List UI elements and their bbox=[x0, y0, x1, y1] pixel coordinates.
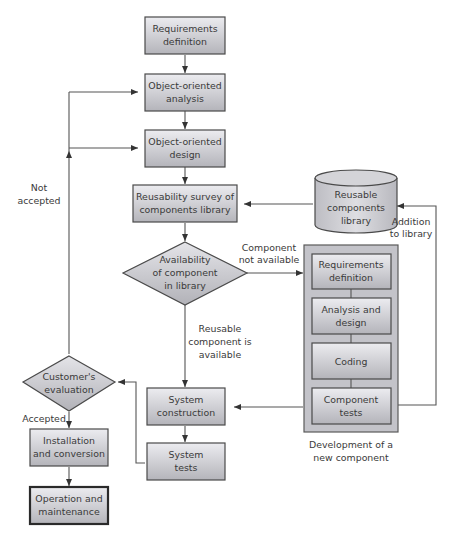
node-label: and conversion bbox=[33, 448, 105, 459]
node-customer-evaluation: Customer's evaluation bbox=[23, 356, 115, 411]
node-reusable-library: Reusable components library bbox=[315, 170, 397, 233]
node-label: design bbox=[335, 317, 366, 328]
node-label: Customer's bbox=[43, 371, 96, 382]
node-sub-requirements-definition: Requirements definition bbox=[312, 254, 391, 289]
node-label: Coding bbox=[335, 356, 368, 367]
node-label: maintenance bbox=[38, 506, 100, 517]
node-label: Reusability survey of bbox=[136, 191, 235, 202]
group-caption: Development of a bbox=[309, 439, 393, 450]
node-label: System bbox=[169, 449, 204, 460]
node-oo-design: Object-oriented design bbox=[145, 130, 225, 167]
node-label: Requirements bbox=[152, 23, 217, 34]
edge-label-accepted: Accepted bbox=[22, 413, 66, 424]
node-label: Reusable bbox=[335, 189, 378, 200]
edge-label-available: available bbox=[199, 349, 242, 360]
node-label: System bbox=[169, 394, 204, 405]
edge-label-not-available: not available bbox=[239, 254, 300, 265]
node-operation-maintenance: Operation and maintenance bbox=[30, 487, 108, 524]
node-system-tests: System tests bbox=[147, 443, 225, 480]
node-availability-decision: Availability of component in library bbox=[123, 242, 247, 305]
node-label: design bbox=[169, 149, 200, 160]
node-label: Component bbox=[324, 394, 379, 405]
node-label: Operation and bbox=[35, 493, 102, 504]
edge-label-not-accepted: Not bbox=[31, 182, 48, 193]
node-label: of component bbox=[152, 267, 217, 278]
node-label: tests bbox=[340, 407, 363, 418]
node-label: Analysis and bbox=[321, 304, 380, 315]
edge-label-not-available: Component bbox=[242, 242, 297, 253]
node-label: components bbox=[327, 202, 385, 213]
edge-label-addition: Addition bbox=[392, 216, 431, 227]
edge-label-available: Reusable bbox=[199, 323, 242, 334]
node-system-construction: System construction bbox=[147, 388, 225, 425]
node-label: tests bbox=[175, 462, 198, 473]
node-label: Object-oriented bbox=[148, 80, 221, 91]
node-sub-component-tests: Component tests bbox=[312, 388, 391, 424]
node-label: Object-oriented bbox=[148, 136, 221, 147]
node-label: Installation bbox=[43, 435, 95, 446]
node-reusability-survey: Reusability survey of components library bbox=[133, 185, 237, 222]
edge-label-available: component is bbox=[188, 336, 252, 347]
node-label: Availability bbox=[159, 254, 211, 265]
group-caption: new component bbox=[313, 452, 389, 463]
node-installation-conversion: Installation and conversion bbox=[30, 429, 108, 466]
node-requirements-definition: Requirements definition bbox=[145, 17, 225, 54]
node-label: library bbox=[341, 215, 372, 226]
node-oo-analysis: Object-oriented analysis bbox=[145, 74, 225, 111]
node-label: construction bbox=[157, 407, 215, 418]
edge-label-addition: to library bbox=[390, 228, 433, 239]
node-label: in library bbox=[164, 280, 206, 291]
node-sub-coding: Coding bbox=[312, 343, 391, 379]
group-new-component-development: Requirements definition Analysis and des… bbox=[304, 245, 398, 432]
oo-development-flowchart: Requirements definition Object-oriented … bbox=[0, 0, 456, 536]
edge-tests-to-evaluation bbox=[118, 382, 145, 463]
node-label: analysis bbox=[166, 93, 204, 104]
node-label: components library bbox=[139, 204, 231, 215]
node-label: definition bbox=[329, 272, 373, 283]
node-label: evaluation bbox=[44, 384, 93, 395]
node-label: definition bbox=[163, 36, 207, 47]
edge-label-not-accepted: accepted bbox=[17, 195, 60, 206]
node-label: Requirements bbox=[318, 259, 383, 270]
node-sub-analysis-design: Analysis and design bbox=[312, 298, 391, 334]
